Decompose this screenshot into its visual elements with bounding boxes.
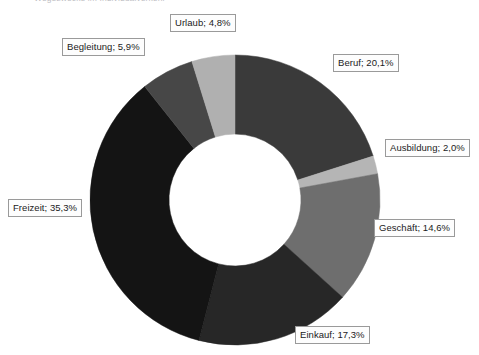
data-label-beruf: Beruf; 20,1% xyxy=(333,54,399,72)
data-label-urlaub: Urlaub; 4,8% xyxy=(170,14,236,32)
donut-chart: Wegezwecke im Individualverkehr Urlaub; … xyxy=(0,0,479,355)
data-label-einkauf: Einkauf; 17,3% xyxy=(295,326,370,344)
data-label-ausbildung: Ausbildung; 2,0% xyxy=(385,139,470,157)
data-label-geschaeft: Geschäft; 14,6% xyxy=(374,219,455,237)
data-label-begleitung: Begleitung; 5,9% xyxy=(62,38,145,56)
donut-slice-group xyxy=(90,55,380,345)
donut-slice-beruf[interactable] xyxy=(235,55,373,180)
data-label-freizeit: Freizeit; 35,3% xyxy=(8,199,82,217)
